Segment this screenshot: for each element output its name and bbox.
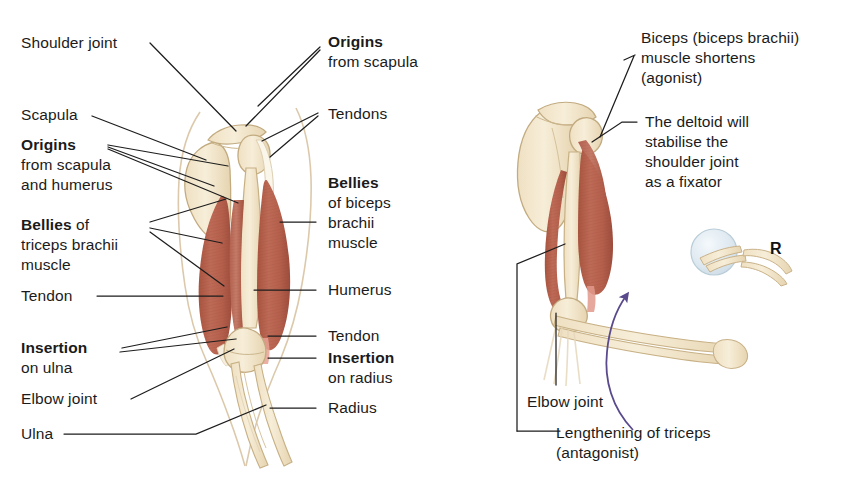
label-biceps-agonist-line1: Biceps (biceps brachii) [641, 28, 799, 48]
label-deltoid-fixator-line4: as a fixator [645, 172, 722, 192]
leader-tendons-2 [270, 116, 318, 157]
anatomy-illustration [0, 0, 854, 483]
label-humerus: Humerus [328, 280, 392, 300]
label-insertion-radius-line2: on radius [328, 368, 393, 388]
anatomy-figure-stage: Shoulder joint Scapula Origins from scap… [0, 0, 854, 483]
label-bellies-biceps-line4: muscle [328, 233, 378, 253]
leader-scapula [92, 116, 206, 160]
label-insertion-radius: Insertion [328, 348, 394, 368]
leader-origins-scapula [258, 47, 320, 106]
label-insertion-ulna: Insertion [21, 338, 87, 358]
label-elbow-joint-right: Elbow joint [527, 392, 603, 412]
label-bellies-triceps-of: of [72, 216, 90, 233]
wrist-carpals [713, 339, 747, 368]
left-figure-art [64, 43, 320, 468]
label-tendon-left: Tendon [21, 286, 72, 306]
label-scapula: Scapula [21, 105, 78, 125]
label-lengthening-triceps-line2: (antagonist) [556, 443, 639, 463]
label-tendons: Tendons [328, 104, 387, 124]
label-radius: Radius [328, 398, 377, 418]
label-origins-scapula-humerus: Origins [21, 135, 76, 155]
label-deltoid-fixator-line3: shoulder joint [645, 152, 739, 172]
label-bellies-triceps-line2: triceps brachii [21, 235, 118, 255]
label-deltoid-fixator-line2: stabilise the [645, 132, 728, 152]
label-origins-scapula-line2: from scapula [328, 52, 418, 72]
label-biceps-agonist-line3: (agonist) [641, 68, 702, 88]
label-elbow-joint-left: Elbow joint [21, 389, 97, 409]
label-shoulder-joint: Shoulder joint [21, 33, 117, 53]
leader-tendons [262, 113, 318, 141]
label-tendon-right: Tendon [328, 326, 379, 346]
leader-origins-scapula-2 [246, 50, 320, 126]
label-insertion-ulna-line2: on ulna [21, 358, 73, 378]
label-bellies-triceps: Bellies of [21, 215, 89, 235]
label-bellies-triceps-bold: Bellies [21, 216, 72, 233]
label-bellies-biceps-line2: of biceps [328, 193, 391, 213]
resistance-marker-label: R [770, 240, 782, 258]
label-bellies-triceps-line3: muscle [21, 255, 71, 275]
label-deltoid-fixator-line1: The deltoid will [645, 112, 749, 132]
label-origins-scapula-humerus-line3: and humerus [21, 175, 113, 195]
label-biceps-agonist-line2: muscle shortens [641, 48, 755, 68]
label-bellies-biceps: Bellies [328, 173, 379, 193]
leader-shoulder-joint [150, 43, 236, 131]
label-origins-scapula-humerus-line2: from scapula [21, 155, 111, 175]
label-ulna: Ulna [21, 424, 53, 444]
label-origins-scapula: Origins [328, 32, 383, 52]
leader-ulna [64, 405, 266, 434]
label-lengthening-triceps-line1: Lengthening of triceps [556, 423, 711, 443]
label-bellies-biceps-line3: brachii [328, 213, 374, 233]
biceps-tendon-right [587, 286, 596, 312]
movement-arrow [606, 296, 633, 430]
